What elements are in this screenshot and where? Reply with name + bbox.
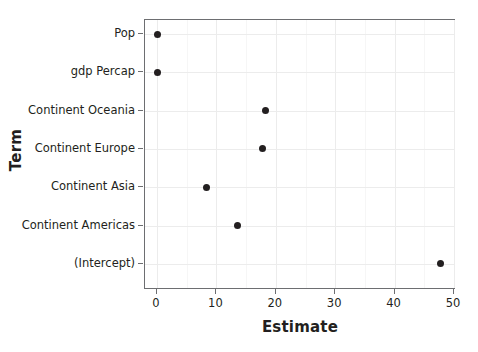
gridline-x-minor-35: [365, 20, 366, 288]
y-tick-label-pop: Pop: [114, 26, 135, 40]
gridline-x-minor-25: [306, 20, 307, 288]
x-tick-mark: [215, 289, 216, 294]
data-point: [437, 260, 444, 267]
data-point: [154, 69, 161, 76]
y-tick-mark: [138, 33, 143, 34]
gridline-y-row: [145, 72, 454, 73]
y-tick-mark: [138, 186, 143, 187]
y-axis-title: Term: [0, 0, 32, 300]
gridline-x-50: [454, 20, 455, 288]
x-tick-mark: [453, 289, 454, 294]
data-point: [262, 107, 269, 114]
x-tick-label-50: 50: [446, 296, 461, 310]
y-tick-label-gdp-percap: gdp Percap: [71, 64, 135, 78]
data-point: [234, 222, 241, 229]
gridline-x-10: [216, 20, 217, 288]
x-tick-mark: [334, 289, 335, 294]
data-point: [259, 145, 266, 152]
gridline-x-minor-45: [424, 20, 425, 288]
gridline-y-row: [145, 226, 454, 227]
gridline-x-40: [395, 20, 396, 288]
y-tick-mark: [138, 110, 143, 111]
gridline-x-minor-5: [187, 20, 188, 288]
data-point: [154, 31, 161, 38]
y-tick-label-continent-asia: Continent Asia: [51, 179, 135, 193]
x-axis-title: Estimate: [144, 318, 456, 336]
y-tick-label-continent-europe: Continent Europe: [35, 141, 135, 155]
x-tick-mark: [275, 289, 276, 294]
gridline-y-row: [145, 34, 454, 35]
data-point: [203, 184, 210, 191]
y-tick-label-intercept: (Intercept): [74, 256, 135, 270]
y-axis-title-text: Term: [7, 129, 25, 171]
y-tick-mark: [138, 71, 143, 72]
x-tick-label-40: 40: [386, 296, 401, 310]
y-tick-label-continent-americas: Continent Americas: [22, 218, 135, 232]
gridline-x-20: [276, 20, 277, 288]
x-tick-label-10: 10: [208, 296, 223, 310]
x-tick-mark: [394, 289, 395, 294]
dot-plot-chart: Term Popgdp PercapContinent OceaniaConti…: [0, 0, 478, 352]
plot-panel: [144, 19, 455, 289]
x-tick-mark: [156, 289, 157, 294]
gridline-y-row: [145, 111, 454, 112]
y-tick-mark: [138, 225, 143, 226]
x-tick-label-0: 0: [152, 296, 159, 310]
y-tick-mark: [138, 148, 143, 149]
gridline-y-row: [145, 187, 454, 188]
gridline-y-row: [145, 264, 454, 265]
y-tick-mark: [138, 263, 143, 264]
x-tick-label-20: 20: [267, 296, 282, 310]
gridline-x-0: [157, 20, 158, 288]
gridline-y-row: [145, 149, 454, 150]
y-tick-label-continent-oceania: Continent Oceania: [28, 103, 135, 117]
gridline-x-30: [335, 20, 336, 288]
gridline-x-minor-15: [246, 20, 247, 288]
x-tick-label-30: 30: [327, 296, 342, 310]
